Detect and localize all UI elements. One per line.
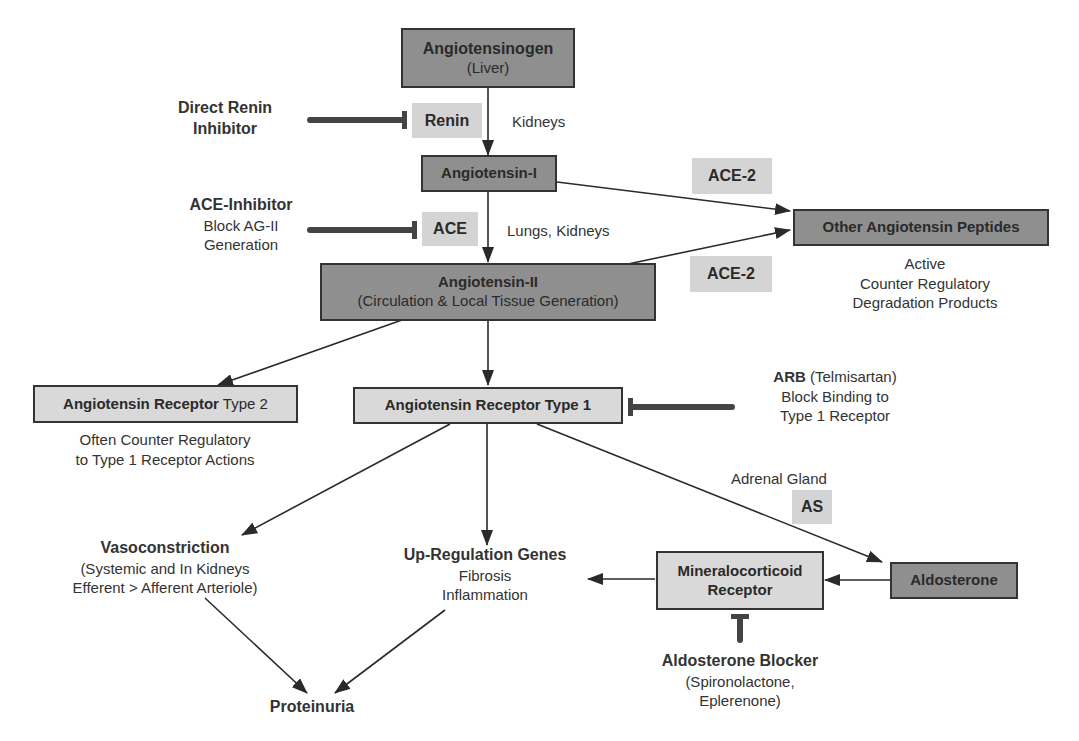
outcome-title: Vasoconstriction	[40, 538, 290, 559]
inhibitor-direct-renin: Direct Renin Inhibitor	[170, 98, 280, 140]
note-line: Often Counter Regulatory	[40, 430, 290, 450]
enzyme-ace2-bottom: ACE-2	[690, 256, 772, 292]
note-line: Active	[840, 254, 1010, 274]
node-title: Angiotensin-I	[441, 164, 537, 183]
node-angiotensinogen: Angiotensinogen (Liver)	[401, 28, 575, 88]
node-subtitle: (Circulation & Local Tissue Generation)	[358, 292, 619, 311]
inhibitor-line: Direct Renin	[170, 98, 280, 119]
enzyme-ace: ACE	[422, 212, 478, 246]
location-lungs-kidneys: Lungs, Kidneys	[507, 221, 610, 241]
enzyme-as: AS	[792, 490, 832, 524]
outcome-line: Fibrosis	[380, 566, 590, 586]
inhibitor-arb: ARB (Telmisartan) Block Binding to Type …	[745, 367, 925, 426]
node-line: Mineralocorticoid	[677, 562, 802, 581]
inhibitor-ace: ACE-Inhibitor Block AG-II Generation	[176, 195, 306, 255]
inhibitor-line: (Spironolactone,	[645, 672, 835, 692]
arrow-vaso-to-proteinuria	[205, 598, 307, 693]
enzyme-renin: Renin	[412, 103, 482, 138]
node-title-normal: Type 2	[219, 395, 268, 414]
outcome-proteinuria: Proteinuria	[262, 697, 362, 718]
arb-bold: ARB	[773, 368, 806, 385]
node-receptor-type1: Angiotensin Receptor Type 1	[353, 387, 623, 424]
node-title: Angiotensinogen	[423, 39, 554, 59]
outcome-line: Inflammation	[380, 585, 590, 605]
outcome-title: Up-Regulation Genes	[380, 545, 590, 566]
node-angiotensin-2: Angiotensin-II (Circulation & Local Tiss…	[320, 263, 656, 321]
node-receptor-type2: Angiotensin Receptor Type 2	[33, 385, 298, 423]
inhibitor-line: Inhibitor	[170, 119, 280, 140]
inhibitor-aldosterone-blocker: Aldosterone Blocker (Spironolactone, Epl…	[645, 651, 835, 711]
node-subtitle: (Liver)	[467, 59, 510, 78]
arrow-ang2-to-type2	[218, 320, 402, 385]
inhibitor-line: Type 1 Receptor	[745, 406, 925, 426]
outcome-line: Efferent > Afferent Arteriole)	[40, 578, 290, 598]
node-title: Angiotensin Receptor Type 1	[385, 396, 591, 415]
enzyme-ace2-top: ACE-2	[692, 158, 772, 194]
node-title-bold: Angiotensin Receptor	[63, 395, 219, 414]
node-mineralocorticoid-receptor: Mineralocorticoid Receptor	[656, 551, 824, 610]
note-line: to Type 1 Receptor Actions	[40, 450, 290, 470]
location-adrenal-gland: Adrenal Gland	[731, 469, 827, 489]
note-line: Degradation Products	[840, 293, 1010, 313]
inhibitor-line: Eplerenone)	[645, 691, 835, 711]
node-other-angiotensin-peptides: Other Angiotensin Peptides	[793, 209, 1049, 246]
node-line: Receptor	[707, 581, 772, 600]
node-angiotensin-1: Angiotensin-I	[421, 155, 557, 192]
node-aldosterone: Aldosterone	[890, 562, 1018, 599]
node-title: Angiotensin-II	[438, 273, 538, 292]
inhibitor-title: ACE-Inhibitor	[176, 195, 306, 216]
outcome-line: (Systemic and In Kidneys	[40, 559, 290, 579]
note-line: Counter Regulatory	[840, 274, 1010, 294]
inhibitor-line: Block AG-II	[176, 216, 306, 236]
outcome-vasoconstriction: Vasoconstriction (Systemic and In Kidney…	[40, 538, 290, 598]
inhibitor-title: Aldosterone Blocker	[645, 651, 835, 672]
other-peptides-notes: Active Counter Regulatory Degradation Pr…	[840, 254, 1010, 313]
inhibitor-line: Generation	[176, 235, 306, 255]
inhibitor-line: Block Binding to	[745, 387, 925, 407]
arb-drug: (Telmisartan)	[806, 368, 897, 385]
node-title: Other Angiotensin Peptides	[823, 218, 1020, 237]
arrow-upreg-to-proteinuria	[335, 610, 445, 693]
node-title: Aldosterone	[910, 571, 998, 590]
outcome-upregulation: Up-Regulation Genes Fibrosis Inflammatio…	[380, 545, 590, 605]
receptor-type2-notes: Often Counter Regulatory to Type 1 Recep…	[40, 430, 290, 469]
location-kidneys: Kidneys	[512, 112, 565, 132]
